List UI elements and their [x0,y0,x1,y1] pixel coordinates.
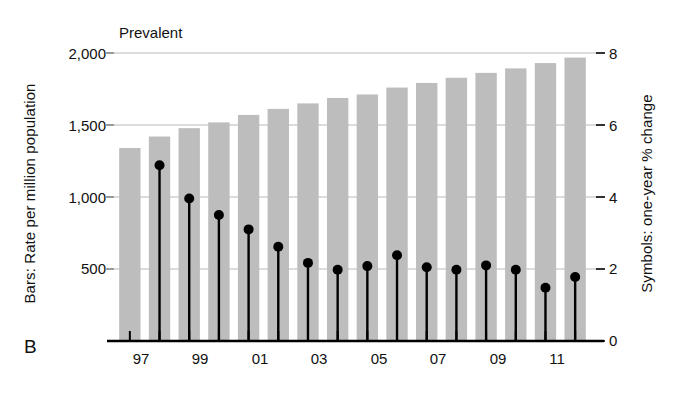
stem-dot [244,224,254,234]
stem-dot [155,160,165,170]
bar [119,148,140,341]
stem-dot [511,265,521,275]
stem-dot [422,262,432,272]
stem-dot [362,261,372,271]
chart-panel: Bars: Rate per million population Symbol… [0,0,676,398]
stem-dot [540,283,550,293]
stem-dot [392,250,402,260]
stem-dot [303,258,313,268]
stem-dot [570,272,580,282]
stem-dot [273,242,283,252]
stem-dot [481,260,491,270]
stem-dot [451,265,461,275]
plot-area [0,0,676,398]
stem-dot [184,193,194,203]
stem-dot [214,210,224,220]
stem-dot [333,265,343,275]
